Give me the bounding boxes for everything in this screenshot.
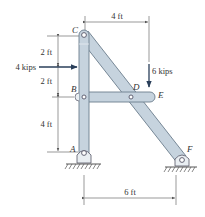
member-bde bbox=[80, 92, 155, 102]
support-f bbox=[164, 155, 197, 172]
load-6-kips: 6 kips bbox=[149, 64, 173, 87]
dimension-left: 2 ft 2 ft 4 ft bbox=[40, 36, 80, 152]
dimension-left-upper-label: 2 ft bbox=[40, 47, 52, 57]
label-e: E bbox=[157, 90, 164, 100]
dimension-left-lower-label: 4 ft bbox=[40, 119, 52, 129]
label-c: C bbox=[72, 25, 79, 35]
load-4-kips-label: 4 kips bbox=[15, 62, 36, 72]
pin-d bbox=[129, 95, 133, 99]
dimension-bottom-label: 6 ft bbox=[124, 187, 136, 197]
dimension-left-middle-label: 2 ft bbox=[40, 76, 52, 86]
pin-c bbox=[82, 33, 87, 38]
label-b: B bbox=[71, 84, 77, 94]
label-d: D bbox=[132, 82, 140, 92]
frame-diagram: 4 ft 2 ft 2 ft 4 ft 6 ft bbox=[0, 0, 205, 217]
load-4-kips: 4 kips bbox=[15, 62, 77, 72]
pin-f bbox=[180, 158, 185, 163]
load-6-kips-label: 6 kips bbox=[152, 66, 173, 76]
label-a: A bbox=[69, 144, 76, 154]
member-abc bbox=[79, 30, 89, 157]
pin-a bbox=[82, 151, 87, 156]
dimension-top-label: 4 ft bbox=[111, 11, 123, 21]
label-f: F bbox=[186, 144, 193, 154]
dimension-bottom: 6 ft bbox=[84, 175, 176, 205]
